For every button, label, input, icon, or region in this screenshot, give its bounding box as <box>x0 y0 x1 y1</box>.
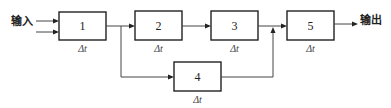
block-3: 3 Δt <box>211 11 258 54</box>
block-1-delay: Δt <box>77 43 87 54</box>
block-5-label: 5 <box>308 19 314 33</box>
output-label: 输出 <box>360 13 382 27</box>
block-4: 4 Δt <box>174 62 221 105</box>
block-2-label: 2 <box>156 19 162 33</box>
block-1-label: 1 <box>80 19 86 33</box>
block-3-label: 3 <box>232 19 238 33</box>
block-2-delay: Δt <box>153 43 163 54</box>
output-arrow <box>334 22 358 27</box>
block-4-label: 4 <box>195 70 201 84</box>
block-5-delay: Δt <box>305 43 315 54</box>
block-5: 5 Δt <box>287 11 334 54</box>
block-2: 2 Δt <box>135 11 182 54</box>
input-arrow-2 <box>36 30 59 35</box>
block-4-delay: Δt <box>192 94 202 105</box>
block-1: 1 Δt <box>59 12 106 54</box>
block-3-delay: Δt <box>229 43 239 54</box>
block-diagram: 输入 1 Δt 2 Δt 3 Δt <box>0 0 391 108</box>
input-label: 输入 <box>11 14 33 28</box>
input-arrow-1 <box>36 19 59 24</box>
edge-2-to-3 <box>182 24 211 29</box>
edge-3-to-5 <box>258 24 287 29</box>
